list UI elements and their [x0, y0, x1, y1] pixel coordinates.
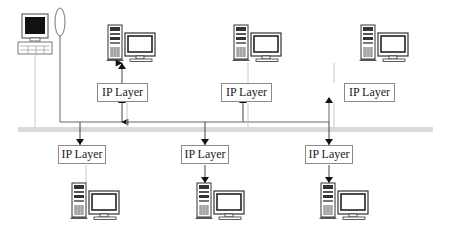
signal-path [60, 36, 329, 122]
signal-oval-icon [55, 8, 65, 36]
ip-layer-box-top-1: IP Layer [97, 83, 148, 102]
ip-layer-label: IP Layer [349, 85, 390, 100]
ip-layer-label: IP Layer [61, 147, 102, 162]
workstation-icon [18, 14, 52, 54]
ip-layer-label: IP Layer [226, 85, 267, 100]
bottom-host-3 [319, 165, 368, 220]
top-host-2 [232, 25, 281, 127]
ip-layer-box-bottom-3: IP Layer [305, 145, 353, 164]
ip-layer-box-bottom-1: IP Layer [58, 145, 106, 164]
ip-layer-label: IP Layer [308, 147, 349, 162]
ip-layer-box-top-2: IP Layer [221, 83, 272, 102]
ip-layer-label: IP Layer [102, 85, 143, 100]
top-host-1 [106, 25, 155, 127]
bottom-host-1 [70, 165, 119, 220]
ip-layer-box-top-3: IP Layer [344, 83, 395, 102]
ip-layer-label: IP Layer [184, 147, 225, 162]
ip-layer-box-bottom-2: IP Layer [181, 145, 229, 164]
top-host-3 [325, 25, 408, 127]
network-diagram [0, 0, 449, 228]
bottom-host-2 [195, 165, 244, 220]
